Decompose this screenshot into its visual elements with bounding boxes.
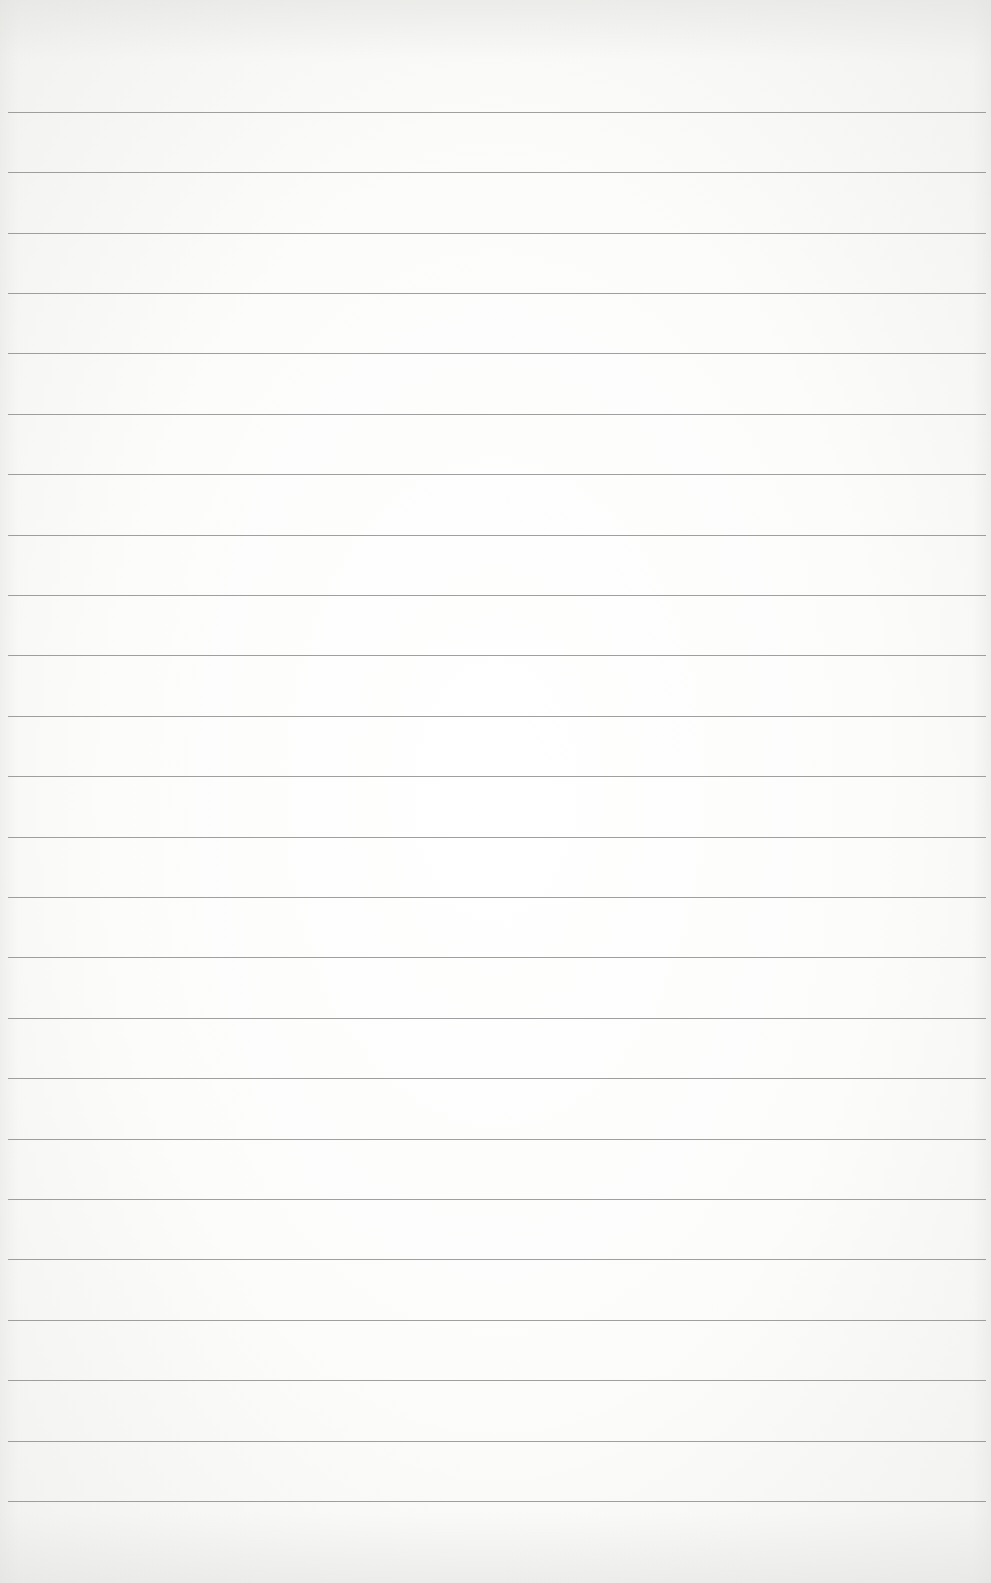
ruled-line: [8, 1320, 986, 1321]
ruled-line: [8, 1018, 986, 1019]
ruled-line: [8, 353, 986, 354]
ruled-line: [8, 1078, 986, 1079]
ruled-line: [8, 414, 986, 415]
ruled-line: [8, 1199, 986, 1200]
ruled-line: [8, 776, 986, 777]
ruled-line: [8, 1501, 986, 1502]
lined-paper-sheet: [0, 0, 991, 1583]
ruled-line: [8, 474, 986, 475]
ruled-line: [8, 1139, 986, 1140]
ruled-line: [8, 535, 986, 536]
ruled-line: [8, 112, 986, 113]
ruled-line: [8, 293, 986, 294]
ruled-line: [8, 957, 986, 958]
ruled-line: [8, 595, 986, 596]
ruled-line: [8, 897, 986, 898]
ruled-line: [8, 172, 986, 173]
ruled-line: [8, 1259, 986, 1260]
ruled-line: [8, 655, 986, 656]
ruled-line: [8, 716, 986, 717]
ruled-line: [8, 233, 986, 234]
ruled-line: [8, 1380, 986, 1381]
ruled-line: [8, 1441, 986, 1442]
ruled-line: [8, 837, 986, 838]
